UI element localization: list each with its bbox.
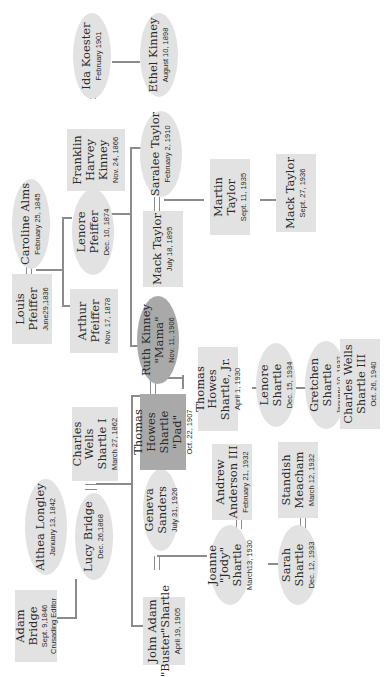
- person-arthur-pfeiffer: Arthur Pfeiffer Nov. 17, 1878: [70, 289, 118, 353]
- person-date: March 27, 1862: [111, 418, 119, 470]
- person-name: Louis Pfeiffer: [14, 274, 40, 344]
- person-date: August 10, 1898: [162, 28, 170, 83]
- person-date: June29,1836: [42, 287, 50, 330]
- person-name: Lucy Bridge: [82, 501, 95, 572]
- person-name: Geneva Sanders: [143, 469, 169, 551]
- person-date: July 18, 1895: [166, 227, 174, 272]
- person-date: Oct. 26, 1940: [370, 361, 378, 406]
- person-date: Dec. 15, 1934: [286, 362, 294, 409]
- person-charles-wells-shartle-i: Charles Wells Shartle I March 27, 1862: [72, 407, 118, 481]
- descent-line: [62, 217, 72, 219]
- descent-line: [75, 579, 77, 619]
- person-date: Dec. 26,1868: [97, 514, 105, 559]
- person-name: Lenore Shartle: [258, 343, 284, 427]
- person-name: Ethel Kinney: [147, 18, 160, 93]
- person-john-adam-shartle: John Adam "Buster"Shartle April 19, 1905: [143, 597, 185, 665]
- person-name: Thomas Howes Shartle "Dad": [132, 394, 184, 470]
- descent-line: [112, 61, 140, 63]
- person-mack-taylor-1895: Mack Taylor July 18, 1895: [143, 211, 183, 287]
- person-ruth-kinney: Ruth Kinney "Mama" Nov. 11, 1906: [137, 296, 179, 384]
- person-date: Dec. 10, 1874: [103, 209, 111, 256]
- person-name: Sarah Shartle: [280, 525, 306, 605]
- person-date: January 13, 1842: [49, 498, 57, 556]
- person-name: John Adam "Buster"Shartle: [146, 585, 172, 677]
- person-date: July 31, 1926: [171, 488, 179, 533]
- descent-line: [62, 217, 64, 307]
- descent-line: [202, 199, 204, 201]
- person-name: Franklin Harvey Kinney: [71, 135, 110, 184]
- person-geneva-sanders: Geneva Sanders July 31, 1926: [143, 469, 179, 551]
- person-charles-wells-shartle-iii: Charles Wells Shartle III Oct. 26, 1940: [340, 339, 380, 429]
- person-note: Crusading Editor: [50, 598, 58, 654]
- person-martin-taylor: Martin Taylor Sept. 11, 1935: [210, 159, 250, 235]
- person-franklin-harvey-kinney: Franklin Harvey Kinney Nov. 24, 1866: [67, 129, 125, 191]
- person-caroline-alms: Caroline Alms February 25, 1845: [12, 179, 50, 269]
- person-name: Caroline Alms: [19, 183, 32, 265]
- person-date: February 1901: [95, 32, 103, 81]
- person-date: March13, 1930: [246, 540, 254, 590]
- descent-line: [164, 199, 204, 201]
- person-name: Andrew Anderson III: [214, 446, 240, 519]
- person-name: Lenore Pfeiffer: [75, 189, 101, 275]
- marriage-line: [154, 197, 160, 211]
- descent-line: [157, 555, 207, 557]
- person-date: Nov. 17, 1878: [104, 298, 112, 344]
- person-saralee-taylor: Saralee Taylor February 2, 1910: [140, 111, 182, 197]
- person-date: Nov. 24, 1866: [112, 137, 120, 183]
- person-lenore-pfeiffer: Lenore Pfeiffer Dec. 10, 1874: [72, 189, 114, 275]
- person-date: Nov. 11, 1906: [168, 317, 176, 363]
- person-standish-meacham: Standish Meacham March 12, 1932: [278, 442, 318, 518]
- person-thomas-howes-shartle-jr: Thomas Howes Shartle, Jr. April 1, 1930: [198, 347, 238, 431]
- person-name: Saralee Taylor: [149, 112, 162, 196]
- person-name: Martin Taylor: [212, 159, 238, 235]
- person-date: February 21, 1932: [242, 451, 250, 512]
- person-name: Ruth Kinney "Mama": [140, 304, 166, 376]
- person-date: February 2, 1910: [164, 125, 172, 182]
- person-date: Sept. 27, 1936: [299, 169, 307, 218]
- person-name: Ida Koester: [80, 22, 93, 89]
- person-name: Arthur Pfeiffer: [76, 300, 102, 343]
- descent-line: [130, 147, 132, 215]
- person-name: Gretchen Shartle: [308, 341, 334, 429]
- person-adam-bridge: Adam Bridge Sept. 9,1846 Crusading Edito…: [15, 590, 57, 662]
- person-lucy-bridge: Lucy Bridge Dec. 26,1868: [75, 493, 113, 580]
- person-date: February 25, 1845: [34, 193, 42, 254]
- person-name: Mack Taylor: [151, 213, 164, 285]
- descent-line: [96, 483, 132, 485]
- person-name: Thomas Howes Shartle, Jr.: [194, 347, 233, 431]
- person-name: Charles Wells Shartle III: [342, 344, 368, 424]
- person-ethel-kinney: Ethel Kinney August 10, 1898: [140, 13, 178, 97]
- person-name: Joanne "Jody" Shartle: [206, 525, 245, 605]
- person-ida-koester: Ida Koester February 1901: [73, 13, 111, 99]
- person-name: Adam Bridge: [14, 590, 40, 662]
- person-date: March 12, 1932: [308, 454, 316, 506]
- person-date: April 1, 1930: [234, 368, 242, 410]
- person-name: Standish Meacham: [280, 451, 306, 508]
- descent-line: [62, 305, 70, 307]
- person-date: April 19, 1905: [174, 608, 182, 654]
- person-andrew-anderson-iii: Andrew Anderson III February 21, 1932: [212, 444, 252, 520]
- descent-line: [130, 213, 132, 347]
- person-sarah-shartle: Sarah Shartle Dec. 12, 1933: [278, 525, 318, 605]
- descent-line: [182, 375, 184, 389]
- person-joanne-shartle: Joanne "Jody" Shartle March13, 1930: [210, 525, 250, 605]
- person-lenore-shartle: Lenore Shartle Dec. 15, 1934: [256, 343, 296, 427]
- person-name: Mack Taylor: [284, 157, 297, 229]
- person-althea-longley: Althea Longley January 13, 1842: [25, 479, 67, 575]
- person-louis-pfeiffer: Louis Pfeiffer June29,1836: [12, 274, 52, 344]
- person-date: Sept. 11, 1935: [240, 173, 248, 221]
- marriage-line: [154, 556, 160, 570]
- person-mack-taylor-1936: Mack Taylor Sept. 27, 1936: [276, 154, 316, 232]
- person-thomas-howes-shartle: Thomas Howes Shartle "Dad" Oct. 22, 1907: [140, 394, 186, 470]
- person-name: Charles Wells Shartle I: [71, 419, 110, 470]
- descent-line: [36, 269, 63, 271]
- person-name: Althea Longley: [34, 483, 47, 571]
- person-date: Dec. 12, 1933: [308, 542, 316, 589]
